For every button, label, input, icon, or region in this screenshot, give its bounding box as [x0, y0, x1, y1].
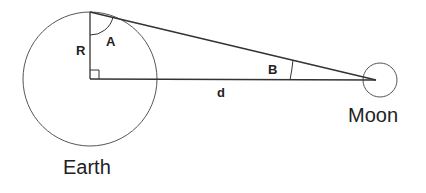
earth-moon-diagram: R A B d Moon Earth	[0, 0, 426, 193]
label-moon: Moon	[348, 104, 398, 126]
label-earth: Earth	[63, 156, 111, 178]
angle-a-arc	[90, 17, 113, 35]
sight-line	[90, 12, 376, 80]
label-r: R	[76, 43, 86, 58]
label-a: A	[106, 34, 116, 49]
label-b: B	[268, 62, 277, 77]
angle-b-arc	[290, 60, 293, 80]
label-d: d	[217, 85, 225, 100]
right-angle-marker	[90, 70, 99, 79]
distance-line	[90, 79, 376, 80]
